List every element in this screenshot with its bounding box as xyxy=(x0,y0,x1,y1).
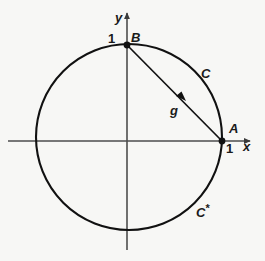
point-a-marker xyxy=(219,138,226,145)
arc-c-star-letter: C xyxy=(196,205,205,220)
unit-circle-figure: y 1 B C g A 1 x C* xyxy=(0,0,265,261)
arc-c-star-superscript: * xyxy=(205,202,209,214)
arc-c-star-label: C* xyxy=(196,203,210,219)
segment-g xyxy=(128,46,222,141)
y-axis-label: y xyxy=(115,11,122,24)
point-a-label: A xyxy=(229,122,238,135)
y-axis-unit-tick-label: 1 xyxy=(108,32,115,45)
segment-g-label: g xyxy=(170,104,178,117)
x-axis-label: x xyxy=(243,140,250,153)
unit-circle xyxy=(36,44,222,230)
x-axis-unit-tick-label: 1 xyxy=(226,142,233,155)
point-b-marker xyxy=(124,42,131,49)
point-b-label: B xyxy=(131,31,140,44)
arc-c-label: C xyxy=(201,67,210,80)
